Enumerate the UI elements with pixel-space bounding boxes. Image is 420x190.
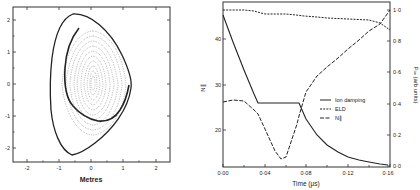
left-x-tick-label: 1 bbox=[121, 165, 124, 171]
right-left-y-tick-label: 30 bbox=[215, 82, 221, 88]
right-right-y-tick-label: 0·6 bbox=[393, 69, 401, 75]
left-y-tick-label: 1 bbox=[7, 49, 10, 55]
left-x-tick-label: 2 bbox=[154, 165, 157, 171]
ion-damping-line bbox=[223, 15, 388, 165]
right-x-tick-label: 0·00 bbox=[217, 170, 228, 176]
right-right-y-axis-label: Pₒₓ (arb units) bbox=[413, 67, 419, 104]
left-x-axis-label: Metres bbox=[80, 176, 103, 183]
left-y-tick-label: -2 bbox=[5, 145, 10, 151]
right-axes-frame bbox=[223, 2, 390, 167]
left-y-tick-label: 0 bbox=[7, 81, 10, 87]
left-y-ticks bbox=[13, 20, 170, 148]
legend-label: Ion damping bbox=[335, 97, 365, 103]
right-right-y-tick-label: 0·8 bbox=[393, 38, 401, 44]
legend-item-ion-damping: Ion damping bbox=[320, 97, 365, 103]
left-panel: -2 -1 0 1 2 2 1 0 -1 -2 Metres bbox=[5, 7, 170, 183]
right-panel: 0·00 0·04 0·08 0·12 0·16 40 30 20 1·0 0·… bbox=[200, 2, 419, 188]
legend-item-n-parallel: N∥ bbox=[320, 115, 342, 122]
right-x-tick-label: 0·12 bbox=[342, 170, 353, 176]
figure: -2 -1 0 1 2 2 1 0 -1 -2 Metres bbox=[0, 0, 420, 190]
right-x-axis-label: Time (μs) bbox=[292, 180, 319, 188]
right-right-y-tick-label: 0·2 bbox=[393, 132, 401, 138]
left-x-ticks bbox=[27, 7, 156, 162]
left-x-tick-label: -2 bbox=[25, 165, 30, 171]
right-left-y-tick-label: 40 bbox=[215, 36, 221, 42]
legend-item-eld: ELD bbox=[320, 106, 346, 112]
right-x-tick-label: 0·08 bbox=[300, 170, 311, 176]
legend: Ion damping ELD N∥ bbox=[320, 97, 365, 122]
left-y-tick-label: -1 bbox=[5, 113, 10, 119]
right-x-tick-label: 0·04 bbox=[259, 170, 270, 176]
n-parallel-line bbox=[223, 10, 390, 159]
left-y-tick-label: 2 bbox=[7, 17, 10, 23]
right-right-y-tick-label: 1·0 bbox=[393, 7, 401, 13]
left-x-tick-label: -1 bbox=[57, 165, 62, 171]
left-x-tick-label: 0 bbox=[89, 165, 92, 171]
right-x-tick-label: 0·16 bbox=[382, 170, 393, 176]
eld-line bbox=[223, 10, 390, 30]
left-axes-frame bbox=[13, 7, 170, 162]
right-left-y-axis-label: N∥ bbox=[200, 84, 207, 91]
legend-label: ELD bbox=[335, 106, 346, 112]
legend-label: N∥ bbox=[335, 115, 342, 122]
right-right-y-tick-label: 0·4 bbox=[393, 101, 401, 107]
right-right-y-tick-label: 0·0 bbox=[393, 163, 401, 169]
right-left-y-tick-label: 20 bbox=[215, 127, 221, 133]
plasma-boundary bbox=[50, 14, 131, 155]
